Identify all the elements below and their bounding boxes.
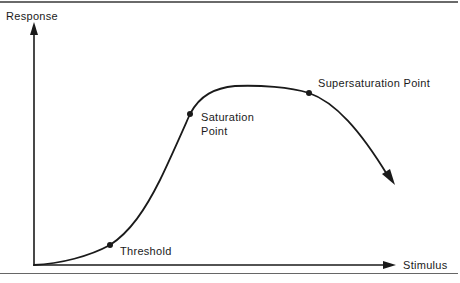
threshold-dot: [107, 242, 113, 248]
saturation-label-line2: Point: [201, 125, 228, 138]
curve-end-arrow-icon: [382, 169, 395, 185]
x-axis-arrow-icon: [383, 261, 396, 269]
bottom-rule: [0, 273, 458, 274]
y-axis-label: Response: [6, 10, 58, 23]
supersaturation-label: Supersaturation Point: [318, 77, 430, 90]
y-axis-arrow-icon: [30, 22, 38, 35]
saturation-label-line1: Saturation: [201, 111, 254, 124]
threshold-label: Threshold: [120, 245, 172, 258]
supersaturation-dot: [306, 90, 312, 96]
response-curve-diagram: [0, 0, 460, 283]
x-axis-label: Stimulus: [403, 259, 448, 272]
saturation-dot: [187, 111, 193, 117]
